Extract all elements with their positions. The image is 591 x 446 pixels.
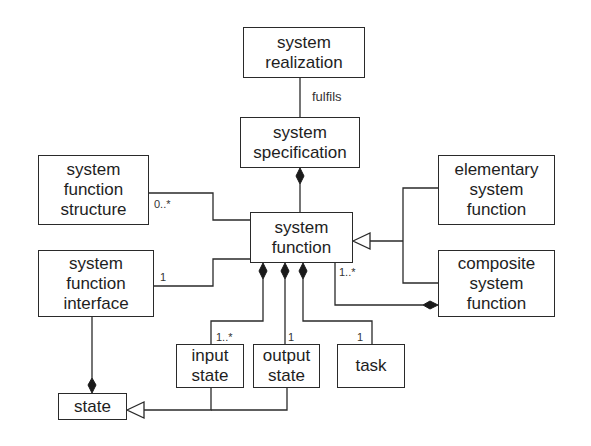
class-state: state [58,393,127,420]
composition-diamond-composite [423,301,438,309]
class-label-line: system [69,254,123,274]
class-label-line: composite [458,254,535,274]
class-system-realization: system realization [243,27,365,78]
class-label-line: system [275,218,329,238]
class-input-state: input state [176,344,244,388]
class-composite-system-function: composite system function [438,250,555,317]
multiplicity-input: 1..* [216,331,233,343]
class-label-line: function [467,294,527,314]
class-label-line: function [66,274,126,294]
composition-diamond-state [88,378,96,393]
class-system-function-structure: system function structure [38,155,149,225]
multiplicity-task: 1 [357,331,363,343]
generalization-triangle-state [127,402,144,418]
class-label-line: elementary [454,160,538,180]
class-label-line: interface [63,294,128,314]
class-label-line: specification [253,143,347,163]
multiplicity-structure: 0..* [154,198,171,210]
class-label-line: function [272,238,332,258]
class-label-line: function [467,200,527,220]
class-elementary-system-function: elementary system function [438,155,555,225]
class-label-line: task [355,356,386,376]
class-label-line: system [277,33,331,53]
multiplicity-composite: 1..* [339,266,356,278]
class-system-function-interface: system function interface [38,250,154,317]
composition-diamond-spec [296,168,304,184]
class-label-line: input [192,346,229,366]
class-label-line: system [470,274,524,294]
class-label-line: realization [265,53,343,73]
class-label-line: system [273,123,327,143]
class-label-line: state [74,397,111,417]
class-label-line: output [263,346,310,366]
class-label-line: system [470,180,524,200]
composition-diamond-input [259,263,267,279]
class-label-line: function [64,180,124,200]
composition-diamond-task [299,263,307,279]
class-system-specification: system specification [240,117,360,168]
class-task: task [337,344,405,388]
class-label-line: state [192,366,229,386]
class-system-function: system function [250,212,353,263]
class-label-line: state [268,366,305,386]
generalization-triangle-function [353,233,370,249]
class-label-line: system [67,160,121,180]
class-output-state: output state [253,344,320,388]
multiplicity-output: 1 [288,331,294,343]
label-fulfils: fulfils [312,89,342,104]
class-label-line: structure [60,200,126,220]
multiplicity-interface: 1 [160,271,166,283]
composition-diamond-output [281,263,289,279]
